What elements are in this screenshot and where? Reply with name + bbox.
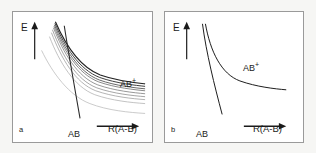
panel-b-abplus-label: AB+ xyxy=(243,61,259,73)
panel-a-x-axis-label: R(A-B) xyxy=(108,124,137,134)
figure-container: E AB AB+ R(A-B) a E AB AB+ R( xyxy=(0,0,316,153)
panel-a-y-axis-arrow xyxy=(31,22,38,59)
panel-a-y-axis-label: E xyxy=(21,23,28,33)
panel-b-ab-label: AB xyxy=(196,130,208,139)
panel-b-ab-curve xyxy=(202,24,222,115)
panel-b-abplus-curve xyxy=(205,24,286,90)
panel-a: E AB AB+ R(A-B) a xyxy=(12,11,153,143)
panel-a-abplus-label: AB+ xyxy=(120,77,136,89)
panel-b-x-axis-label: R(A-B) xyxy=(253,124,282,134)
panel-b-plot xyxy=(165,12,303,142)
panel-b-abplus-label-text: AB xyxy=(243,63,255,73)
panel-a-abplus-curve-family xyxy=(42,22,146,114)
panel-b-y-axis-label: E xyxy=(173,23,180,33)
panel-a-ab-curve xyxy=(64,26,80,119)
panel-a-ab-label: AB xyxy=(68,130,80,139)
panel-b-abplus-label-superscript: + xyxy=(255,61,259,68)
panel-b: E AB AB+ R(A-B) b xyxy=(164,11,304,143)
panel-a-tag: a xyxy=(19,126,23,134)
panel-b-y-axis-arrow xyxy=(183,22,190,59)
panel-b-tag: b xyxy=(171,126,175,134)
panel-a-abplus-label-superscript: + xyxy=(132,77,136,84)
panel-a-abplus-label-text: AB xyxy=(120,79,132,89)
